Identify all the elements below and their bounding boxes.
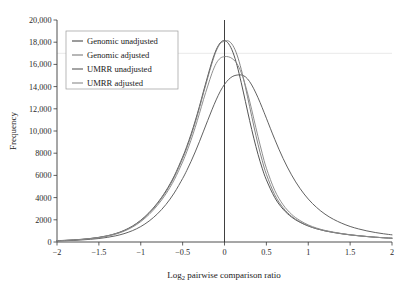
y-tick-label-5: 10,000: [29, 127, 52, 136]
y-tick-label-1: 2000: [35, 216, 51, 225]
legend-label-0[interactable]: Genomic unadjusted: [87, 36, 159, 46]
y-axis-title: Frequency: [8, 112, 18, 150]
y-tick-label-2: 4000: [35, 194, 51, 203]
x-tick-label-5: 0.5: [261, 248, 271, 257]
x-tick-label-7: 1.5: [345, 248, 355, 257]
chart-figure: 0200040006000800010,00012,00014,00016,00…: [0, 0, 404, 289]
legend-label-3[interactable]: UMRR adjusted: [87, 78, 144, 88]
x-tick-label-2: −1: [136, 248, 145, 257]
y-tick-label-3: 6000: [35, 171, 51, 180]
x-axis-title-rest: pairwise comparison ratio: [185, 270, 281, 280]
legend[interactable]: Genomic unadjustedGenomic adjustedUMRR u…: [66, 31, 178, 89]
y-tick-label-0: 0: [47, 238, 51, 247]
y-tick-label-6: 12,000: [29, 105, 52, 114]
x-tick-label-8: 2: [390, 248, 394, 257]
legend-label-2[interactable]: UMRR unadjusted: [87, 64, 152, 74]
y-tick-label-4: 8000: [35, 149, 51, 158]
y-tick-label-10: 20,000: [29, 16, 52, 25]
x-tick-label-1: −1.5: [91, 248, 106, 257]
chart-background: [0, 0, 404, 289]
legend-label-1[interactable]: Genomic adjusted: [87, 50, 150, 60]
y-tick-label-8: 16,000: [29, 60, 52, 69]
x-tick-label-0: −2: [53, 248, 62, 257]
x-tick-label-6: 1: [306, 248, 310, 257]
x-tick-label-4: 0: [222, 248, 226, 257]
y-tick-label-9: 18,000: [29, 38, 52, 47]
frequency-distribution-chart: 0200040006000800010,00012,00014,00016,00…: [0, 0, 404, 289]
x-axis-title: Log2 pairwise comparison ratio: [167, 270, 281, 281]
x-axis-title-base: Log: [167, 270, 182, 280]
x-tick-label-3: −0.5: [175, 248, 190, 257]
y-tick-label-7: 14,000: [29, 83, 52, 92]
